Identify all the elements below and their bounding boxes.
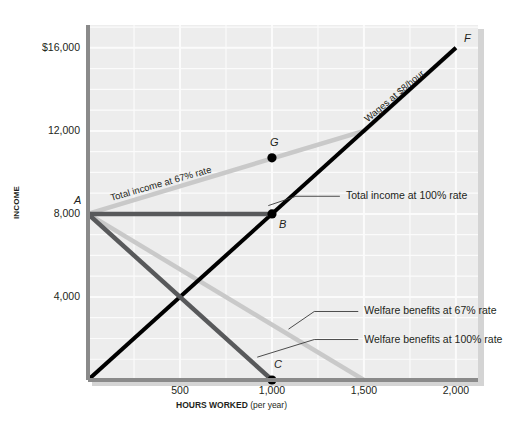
x-tick-label: 2,000 (426, 384, 486, 396)
point-label-B: B (279, 218, 286, 230)
y-tick-label: $16,000 (18, 41, 80, 53)
point-label-F: F (464, 32, 471, 44)
point-marker-G (267, 153, 276, 162)
x-axis-title-sub: (per year) (250, 400, 287, 410)
y-axis-title: INCOME (12, 173, 21, 233)
point-label-G: G (270, 136, 279, 148)
figure-canvas: INCOME HOURS WORKED (per year) 4,0008,00… (0, 0, 517, 427)
y-tick-label: 8,000 (18, 207, 80, 219)
series-callout-label: Welfare benefits at 100% rate (364, 333, 502, 345)
series-callout-label: Welfare benefits at 67% rate (364, 304, 496, 316)
series-callout-label: Total income at 100% rate (346, 189, 467, 201)
x-tick-label: 500 (150, 384, 210, 396)
x-axis-title-main: HOURS WORKED (176, 400, 248, 410)
point-label-A: A (74, 194, 81, 206)
point-marker-B (267, 209, 276, 218)
x-tick-label: 1,500 (334, 384, 394, 396)
x-axis-title: HOURS WORKED (per year) (176, 400, 287, 410)
point-label-C: C (274, 358, 282, 370)
y-tick-label: 12,000 (18, 124, 80, 136)
x-tick-label: 1,000 (242, 384, 302, 396)
y-tick-label: 4,000 (18, 290, 80, 302)
